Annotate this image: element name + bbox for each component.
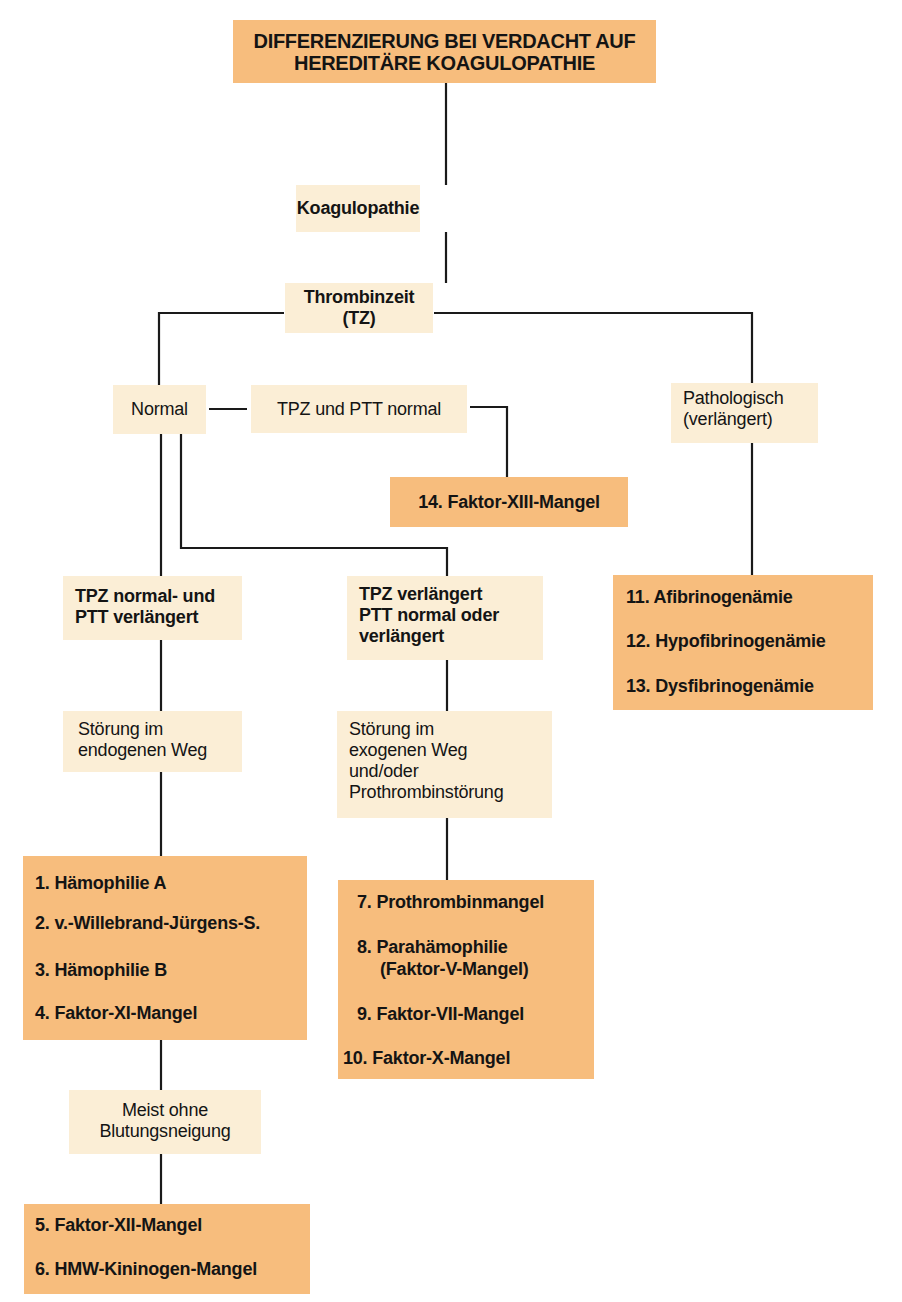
diagram-title: DIFFERENZIERUNG BEI VERDACHT AUF HEREDIT…	[233, 20, 656, 83]
node-tpz-ptt-normal: TPZ und PTT normal	[251, 385, 467, 433]
node-tpz-verl-line-2: PTT normal oder	[359, 605, 543, 626]
outcome-parahaemophilie-sub: (Faktor-V-Mangel)	[380, 959, 529, 980]
node-normal: Normal	[113, 385, 206, 434]
outcome-fibrinogen-group: 11. Afibrinogenämie 12. Hypofibrinogenäm…	[613, 575, 873, 710]
outcome-willebrand: 2. v.-Willebrand-Jürgens-S.	[35, 913, 260, 934]
node-tpz-verl-line-3: verlängert	[359, 626, 543, 647]
outcome-haemophilie-a: 1. Hämophilie A	[35, 873, 166, 894]
outcome-haemophilie-b: 3. Hämophilie B	[35, 960, 167, 981]
node-normal-label: Normal	[131, 399, 188, 420]
node-thrombinzeit: Thrombinzeit (TZ)	[285, 283, 433, 333]
node-stoerung-exogen-line-3: und/oder	[349, 761, 552, 782]
node-stoerung-exogen: Störung im exogenen Weg und/oder Prothro…	[337, 711, 552, 818]
node-thrombinzeit-label: Thrombinzeit (TZ)	[285, 287, 433, 329]
node-stoerung-endogen: Störung im endogenen Weg	[63, 711, 242, 772]
outcome-faktor-x: 10. Faktor-X-Mangel	[343, 1048, 510, 1069]
node-tpz-ptt-normal-label: TPZ und PTT normal	[277, 399, 441, 420]
node-meist-ohne-line-2: Blutungsneigung	[69, 1121, 261, 1142]
node-tpz-verl-line-1: TPZ verlängert	[359, 584, 543, 605]
node-meist-ohne-blutungsneigung: Meist ohne Blutungsneigung	[69, 1090, 261, 1154]
node-stoerung-exogen-line-4: Prothrombinstörung	[349, 782, 552, 803]
outcome-dysfibrinogenaemie: 13. Dysfibrinogenämie	[626, 676, 814, 697]
node-stoerung-exogen-line-2: exogenen Weg	[349, 740, 552, 761]
outcome-endogen-group: 1. Hämophilie A 2. v.-Willebrand-Jürgens…	[23, 856, 307, 1040]
outcome-prothrombinmangel: 7. Prothrombinmangel	[357, 892, 544, 913]
node-tpz-normal-line-1: TPZ normal- und	[75, 586, 242, 607]
node-tpz-verlaengert: TPZ verlängert PTT normal oder verlänger…	[347, 576, 543, 660]
node-koagulopathie: Koagulopathie	[296, 185, 420, 232]
outcome-afibrinogenaemie: 11. Afibrinogenämie	[626, 587, 793, 608]
node-stoerung-endogen-line-2: endogenen Weg	[78, 740, 242, 761]
outcome-faktor-xiii: 14. Faktor-XIII-Mangel	[390, 477, 628, 527]
outcome-faktor-xiii-label: 14. Faktor-XIII-Mangel	[418, 492, 600, 513]
outcome-faktor-xi: 4. Faktor-XI-Mangel	[35, 1003, 197, 1024]
node-pathologisch-line-2: (verlängert)	[683, 409, 818, 430]
outcome-faktor-xii: 5. Faktor-XII-Mangel	[35, 1215, 202, 1236]
outcome-faktor-vii: 9. Faktor-VII-Mangel	[357, 1004, 524, 1025]
node-pathologisch: Pathologisch (verlängert)	[671, 383, 818, 443]
node-stoerung-endogen-line-1: Störung im	[78, 719, 242, 740]
node-meist-ohne-line-1: Meist ohne	[69, 1100, 261, 1121]
outcome-exogen-group: 7. Prothrombinmangel 8. Parahämophilie (…	[338, 880, 594, 1079]
node-koagulopathie-label: Koagulopathie	[297, 198, 419, 219]
node-tpz-normal-line-2: PTT verlängert	[75, 607, 242, 628]
node-stoerung-exogen-line-1: Störung im	[349, 719, 552, 740]
outcome-hmw-kininogen: 6. HMW-Kininogen-Mangel	[35, 1259, 257, 1280]
outcome-kontakt-group: 5. Faktor-XII-Mangel 6. HMW-Kininogen-Ma…	[24, 1204, 310, 1294]
outcome-hypofibrinogenaemie: 12. Hypofibrinogenämie	[626, 631, 826, 652]
title-line-2: HEREDITÄRE KOAGULOPATHIE	[233, 52, 656, 74]
node-tpz-normal-ptt-verlaengert: TPZ normal- und PTT verlängert	[63, 576, 242, 640]
node-pathologisch-line-1: Pathologisch	[683, 388, 818, 409]
title-line-1: DIFFERENZIERUNG BEI VERDACHT AUF	[233, 30, 656, 52]
outcome-parahaemophilie: 8. Parahämophilie	[357, 937, 508, 958]
